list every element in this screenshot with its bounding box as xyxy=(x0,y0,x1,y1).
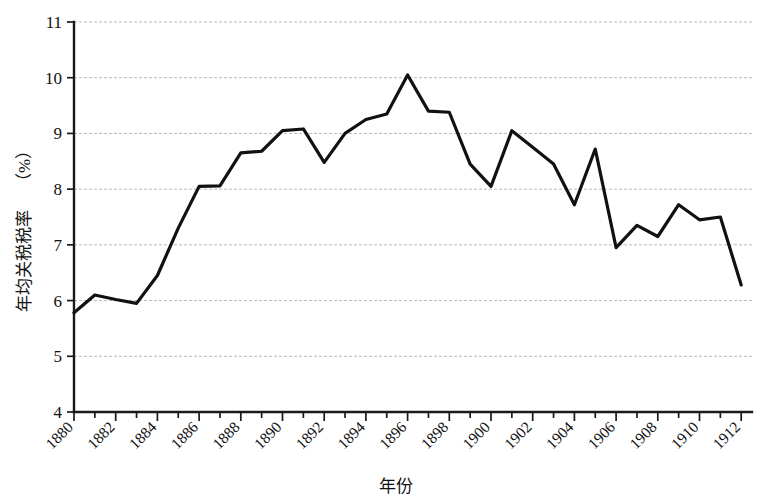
y-axis-tick-label: 8 xyxy=(54,180,63,199)
x-axis-tick-label: 1882 xyxy=(84,418,118,452)
tariff-rate-line-chart: 4567891011 18801882188418861888189018921… xyxy=(0,0,763,504)
x-axis-tick-label: 1890 xyxy=(251,418,285,452)
x-axis-ticks-group xyxy=(74,412,741,421)
x-axis-tick-labels-group: 1880188218841886188818901892189418961898… xyxy=(42,418,743,452)
x-axis-tick-label: 1904 xyxy=(543,418,577,452)
x-axis-tick-label: 1912 xyxy=(709,418,743,452)
x-axis-tick-label: 1892 xyxy=(292,418,326,452)
y-axis-tick-label: 10 xyxy=(45,69,62,88)
y-axis-title-unit: （%） xyxy=(15,142,34,190)
y-axis-tick-label: 5 xyxy=(54,347,63,366)
x-axis-tick-label: 1900 xyxy=(459,418,493,452)
x-axis-tick-label: 1908 xyxy=(626,418,660,452)
y-axis-tick-label: 9 xyxy=(54,124,63,143)
x-axis-tick-label: 1884 xyxy=(126,418,160,452)
x-axis-tick-label: 1880 xyxy=(42,418,76,452)
y-axis-tick-label: 7 xyxy=(54,236,63,255)
x-axis-tick-label: 1902 xyxy=(501,418,535,452)
y-axis-tick-label: 6 xyxy=(54,292,63,311)
x-axis-tick-label: 1886 xyxy=(167,418,201,452)
x-axis-tick-label: 1906 xyxy=(584,418,618,452)
x-axis-tick-label: 1898 xyxy=(417,418,451,452)
y-axis-tick-label: 11 xyxy=(46,13,62,32)
y-axis-title: 年均关税税率 （%） xyxy=(14,142,34,312)
y-axis-tick-label: 4 xyxy=(54,403,63,422)
x-axis-tick-label: 1894 xyxy=(334,418,368,452)
x-axis-tick-label: 1910 xyxy=(668,418,702,452)
gridlines-group xyxy=(74,22,752,356)
x-axis-title-text: 年份 xyxy=(379,476,413,496)
x-axis-tick-label: 1896 xyxy=(376,418,410,452)
data-series-line xyxy=(74,75,741,313)
chart-container: 4567891011 18801882188418861888189018921… xyxy=(0,0,763,504)
y-axis-title-text: 年均关税税率 xyxy=(14,210,34,312)
x-axis-tick-label: 1888 xyxy=(209,418,243,452)
y-axis-tick-labels-group: 4567891011 xyxy=(45,13,63,422)
